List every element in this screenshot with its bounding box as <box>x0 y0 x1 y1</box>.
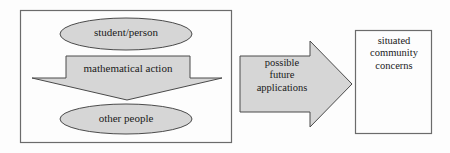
diagram-canvas: student/person mathematical action other… <box>0 0 450 153</box>
ellipse-other-people <box>60 104 192 134</box>
box-situated-community-concerns <box>356 31 432 134</box>
arrow-possible-future-applications <box>240 41 352 127</box>
ellipse-student-person <box>60 18 192 50</box>
diagram-graphics <box>0 0 450 153</box>
